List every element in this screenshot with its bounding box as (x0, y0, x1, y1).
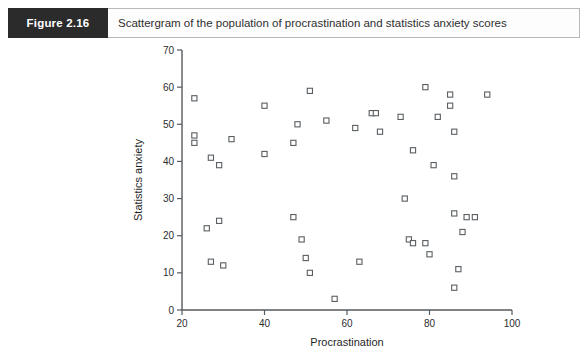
data-point (291, 215, 296, 220)
data-point (452, 285, 457, 290)
data-point (377, 129, 382, 134)
data-point (456, 267, 461, 272)
x-tick-label: 80 (424, 318, 436, 329)
y-tick-label: 70 (163, 45, 175, 56)
data-point (332, 296, 337, 301)
data-point (472, 215, 477, 220)
x-axis-title: Procrastination (310, 336, 383, 348)
data-point (435, 114, 440, 119)
data-point (299, 237, 304, 242)
data-point (410, 241, 415, 246)
data-point (423, 241, 428, 246)
figure-container: Figure 2.16 Scattergram of the populatio… (0, 0, 588, 356)
data-point (262, 103, 267, 108)
data-points (192, 85, 490, 302)
data-point (431, 163, 436, 168)
x-axis: 20406080100 (176, 310, 520, 329)
data-point (217, 218, 222, 223)
data-point (357, 259, 362, 264)
data-point (307, 88, 312, 93)
y-tick-label: 0 (168, 305, 174, 316)
data-point (402, 196, 407, 201)
y-tick-label: 30 (163, 193, 175, 204)
data-point (192, 96, 197, 101)
data-point (448, 103, 453, 108)
y-tick-label: 10 (163, 267, 175, 278)
data-point (423, 85, 428, 90)
data-point (452, 129, 457, 134)
data-point (324, 118, 329, 123)
data-point (307, 270, 312, 275)
figure-caption: Scattergram of the population of procras… (118, 8, 507, 38)
data-point (448, 92, 453, 97)
data-point (373, 111, 378, 116)
data-point (208, 155, 213, 160)
data-point (427, 252, 432, 257)
data-point (217, 163, 222, 168)
x-tick-label: 60 (341, 318, 353, 329)
y-axis-title: Statistics anxiety (132, 139, 144, 221)
x-tick-label: 40 (259, 318, 271, 329)
data-point (353, 125, 358, 130)
scatterplot-svg: 010203040506070 20406080100 Procrastinat… (0, 40, 588, 356)
x-tick-label: 20 (176, 318, 188, 329)
data-point (204, 226, 209, 231)
data-point (295, 122, 300, 127)
data-point (410, 148, 415, 153)
x-tick-label: 100 (504, 318, 521, 329)
figure-number-tag: Figure 2.16 (8, 8, 108, 38)
data-point (208, 259, 213, 264)
data-point (303, 255, 308, 260)
data-point (192, 133, 197, 138)
data-point (262, 151, 267, 156)
data-point (485, 92, 490, 97)
data-point (460, 229, 465, 234)
data-point (464, 215, 469, 220)
y-tick-label: 60 (163, 82, 175, 93)
y-axis: 010203040506070 (163, 45, 182, 316)
data-point (452, 174, 457, 179)
y-tick-label: 40 (163, 156, 175, 167)
y-tick-label: 50 (163, 119, 175, 130)
scatterplot: 010203040506070 20406080100 Procrastinat… (0, 40, 588, 356)
data-point (291, 140, 296, 145)
data-point (192, 140, 197, 145)
data-point (452, 211, 457, 216)
data-point (398, 114, 403, 119)
data-point (221, 263, 226, 268)
y-tick-label: 20 (163, 230, 175, 241)
data-point (229, 137, 234, 142)
